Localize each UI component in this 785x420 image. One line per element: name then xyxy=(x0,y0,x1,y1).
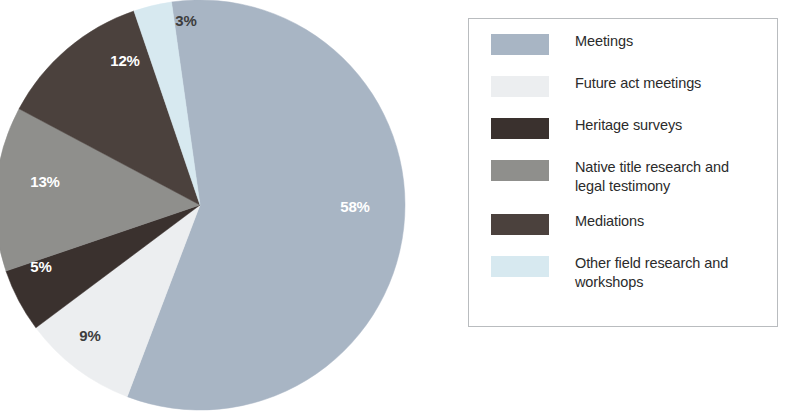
pie-slice-value-label: 5% xyxy=(30,258,51,275)
legend-item[interactable]: Future act meetings xyxy=(491,74,761,102)
legend-item-list: MeetingsFuture act meetingsHeritage surv… xyxy=(491,32,761,309)
pie-plot-area: 58%9%5%13%12%3% xyxy=(0,0,440,420)
pie-svg: 58%9%5%13%12%3% xyxy=(0,0,440,420)
pie-chart-figure: 58%9%5%13%12%3% MeetingsFuture act meeti… xyxy=(0,0,785,420)
pie-slice-value-label: 3% xyxy=(175,12,196,29)
legend-color-swatch xyxy=(491,256,549,277)
legend-item[interactable]: Meetings xyxy=(491,32,761,60)
legend-color-swatch xyxy=(491,214,549,235)
legend-item[interactable]: Heritage surveys xyxy=(491,116,761,144)
pie-slice-value-label: 12% xyxy=(110,52,139,69)
legend-box: MeetingsFuture act meetingsHeritage surv… xyxy=(468,18,778,327)
legend-item-label: Heritage surveys xyxy=(575,116,761,135)
legend-item[interactable]: Native title research and legal testimon… xyxy=(491,158,761,196)
legend-color-swatch xyxy=(491,76,549,97)
legend-item[interactable]: Other field research and workshops xyxy=(491,254,761,292)
legend-item[interactable]: Mediations xyxy=(491,212,761,240)
legend-item-label: Future act meetings xyxy=(575,74,761,93)
legend-item-label: Meetings xyxy=(575,32,761,51)
legend-color-swatch xyxy=(491,160,549,181)
legend-item-label: Other field research and workshops xyxy=(575,254,761,292)
legend-color-swatch xyxy=(491,34,549,55)
legend-item-label: Native title research and legal testimon… xyxy=(575,158,761,196)
pie-slice-value-label: 58% xyxy=(340,198,369,215)
legend-item-label: Mediations xyxy=(575,212,761,231)
pie-slice-value-label: 9% xyxy=(79,327,100,344)
legend-color-swatch xyxy=(491,118,549,139)
pie-slice-value-label: 13% xyxy=(30,173,59,190)
